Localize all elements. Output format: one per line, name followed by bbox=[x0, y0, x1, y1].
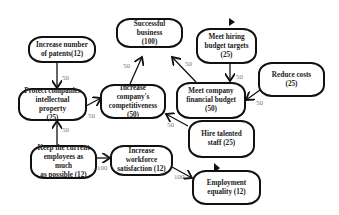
node-increase-competitiveness: Increase company's competitiveness (50) bbox=[100, 84, 166, 119]
node-hire-talented-staff: Hire talented staff (25) bbox=[188, 120, 255, 158]
diagram-canvas: Increase number of patents(12) Successfu… bbox=[0, 0, 339, 215]
edge-compet-success bbox=[130, 57, 142, 84]
edge-weight-hire-compet: 50 bbox=[167, 121, 174, 129]
node-meet-hiring-budget: Meet hiring budget targets (25) bbox=[196, 28, 257, 64]
edge-weight-keep-satisf: 100 bbox=[97, 164, 108, 172]
edge-weight-hiring-finbudget: 50 bbox=[236, 73, 243, 81]
node-successful-business: Successful business (100) bbox=[116, 18, 183, 48]
edge-weight-costs-finbudget: 50 bbox=[256, 99, 263, 107]
node-reduce-costs: Reduce costs (25) bbox=[258, 62, 325, 97]
edge-weight-compet-success: 50 bbox=[123, 62, 130, 70]
node-increase-satisfaction: Increase workforce satisfaction (12) bbox=[110, 145, 173, 176]
edge-weight-finbudget-success: 50 bbox=[185, 60, 192, 68]
edge-weight-keep-ip: 50 bbox=[62, 126, 69, 134]
edge-finbudget-success bbox=[172, 57, 196, 82]
flag-marker-icon bbox=[229, 18, 235, 26]
edge-weight-satisf-equality: 100 bbox=[174, 173, 185, 181]
node-employment-equality: Employment equality (12) bbox=[192, 170, 261, 205]
edge-ip-compet bbox=[86, 98, 101, 106]
edge-weight-patents-ip: 50 bbox=[62, 74, 69, 82]
node-protect-ip: Protect companies intellectual property … bbox=[18, 88, 87, 121]
node-keep-employees: Keep the current employees as much as po… bbox=[30, 145, 97, 179]
node-meet-financial-budget: Meet company financial budget (50) bbox=[176, 82, 246, 119]
edge-weight-ip-compet: 50 bbox=[88, 112, 95, 120]
node-increase-patents: Increase number of patents(12) bbox=[28, 36, 96, 63]
